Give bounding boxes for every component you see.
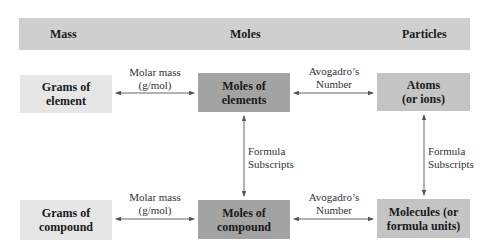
molar-mass-top-label: Molar mass (g/mol) bbox=[120, 66, 190, 92]
label-line: Subscripts bbox=[248, 158, 294, 171]
formula-subscripts-right-label: Formula Subscripts bbox=[428, 145, 474, 171]
header-moles: Moles bbox=[230, 18, 261, 50]
label-line: Avogadro’s bbox=[298, 191, 370, 204]
header-mass: Mass bbox=[50, 18, 77, 50]
box-line: compound bbox=[217, 220, 271, 234]
moles-of-elements-box: Moles of elements bbox=[198, 73, 290, 112]
formula-subscripts-left-label: Formula Subscripts bbox=[248, 145, 294, 171]
moles-of-compound-box: Moles of compound bbox=[198, 200, 290, 239]
label-line: Formula bbox=[428, 145, 474, 158]
label-line: Number bbox=[298, 78, 370, 91]
molecules-box: Molecules (or formula units) bbox=[377, 199, 470, 238]
header-band: Mass Moles Particles bbox=[19, 18, 470, 50]
label-line: (g/mol) bbox=[120, 79, 190, 92]
box-line: compound bbox=[39, 220, 93, 234]
label-line: Avogadro’s bbox=[298, 65, 370, 78]
grams-of-element-box: Grams of element bbox=[20, 75, 112, 113]
grams-of-compound-box: Grams of compound bbox=[20, 200, 112, 240]
box-line: Moles of bbox=[217, 206, 271, 220]
header-particles: Particles bbox=[402, 18, 447, 50]
label-line: Formula bbox=[248, 145, 294, 158]
box-line: elements bbox=[222, 93, 267, 107]
avogadro-bottom-label: Avogadro’s Number bbox=[298, 191, 370, 217]
label-line: Molar mass bbox=[120, 66, 190, 79]
box-line: (or ions) bbox=[402, 92, 445, 106]
box-line: formula units) bbox=[387, 219, 461, 233]
box-line: Grams of bbox=[42, 80, 90, 94]
box-line: Moles of bbox=[222, 79, 267, 93]
box-line: element bbox=[42, 94, 90, 108]
box-line: Grams of bbox=[39, 206, 93, 220]
label-line: Molar mass bbox=[120, 191, 190, 204]
molar-mass-bottom-label: Molar mass (g/mol) bbox=[120, 191, 190, 217]
label-line: Subscripts bbox=[428, 158, 474, 171]
label-line: Number bbox=[298, 204, 370, 217]
avogadro-top-label: Avogadro’s Number bbox=[298, 65, 370, 91]
box-line: Atoms bbox=[402, 78, 445, 92]
label-line: (g/mol) bbox=[120, 204, 190, 217]
atoms-box: Atoms (or ions) bbox=[377, 73, 470, 111]
box-line: Molecules (or bbox=[387, 205, 461, 219]
